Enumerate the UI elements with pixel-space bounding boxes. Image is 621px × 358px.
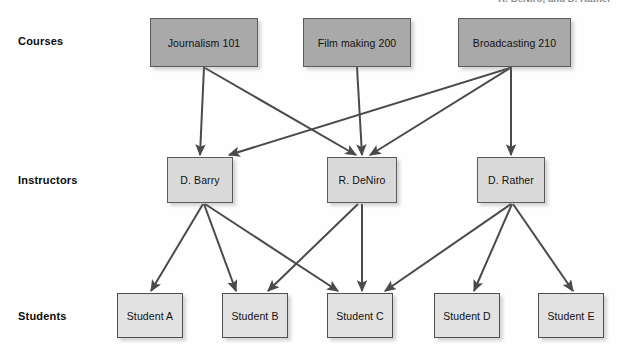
- edge-broadcasting210-to-rdeniro: [370, 68, 510, 155]
- edge-dbarry-to-studentC: [205, 204, 338, 291]
- node-film-making-200[interactable]: Film making 200: [303, 18, 411, 67]
- edge-broadcasting210-to-dbarry: [229, 68, 510, 155]
- node-label: Student A: [127, 310, 173, 322]
- edge-filmmaking200-to-rdeniro: [357, 67, 362, 155]
- top-caption: R. DeNiro, and D. Rather: [498, 0, 611, 4]
- row-label-courses: Courses: [18, 35, 63, 47]
- node-student-a[interactable]: Student A: [117, 293, 183, 338]
- node-student-b[interactable]: Student B: [222, 293, 288, 338]
- diagram-canvas: R. DeNiro, and D. Rather Courses Instruc…: [0, 0, 621, 358]
- node-label: Student D: [443, 310, 491, 322]
- edge-rdeniro-to-studentB: [268, 204, 358, 291]
- node-label: D. Barry: [180, 174, 219, 186]
- edge-dbarry-to-studentB: [204, 204, 236, 291]
- edge-drather-to-studentE: [513, 204, 573, 291]
- node-label: Journalism 101: [168, 37, 241, 49]
- edge-journalism101-to-rdeniro: [205, 68, 356, 155]
- node-label: Student B: [231, 310, 278, 322]
- node-label: Film making 200: [318, 37, 397, 49]
- node-student-e[interactable]: Student E: [538, 293, 604, 338]
- edge-journalism101-to-dbarry: [200, 67, 204, 155]
- node-label: D. Rather: [488, 174, 534, 186]
- node-label: Broadcasting 210: [473, 37, 556, 49]
- edge-dbarry-to-studentA: [151, 204, 203, 291]
- row-label-instructors: Instructors: [18, 174, 78, 186]
- node-student-c[interactable]: Student C: [327, 293, 393, 338]
- node-label: R. DeNiro: [339, 174, 386, 186]
- node-d-barry[interactable]: D. Barry: [167, 157, 233, 203]
- node-broadcasting-210[interactable]: Broadcasting 210: [458, 18, 571, 67]
- node-student-d[interactable]: Student D: [434, 293, 500, 338]
- node-r-deniro[interactable]: R. DeNiro: [327, 157, 397, 203]
- node-d-rather[interactable]: D. Rather: [477, 157, 545, 203]
- row-label-students: Students: [18, 310, 67, 322]
- node-label: Student E: [547, 310, 594, 322]
- node-journalism-101[interactable]: Journalism 101: [150, 18, 258, 67]
- edge-drather-to-studentC: [385, 204, 511, 291]
- edge-drather-to-studentD: [474, 204, 512, 291]
- node-label: Student C: [336, 310, 384, 322]
